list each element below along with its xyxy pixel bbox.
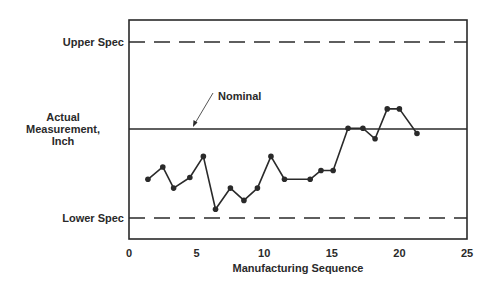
data-point-marker [228,185,234,191]
chart-svg: Upper Spec Lower Spec Nominal Actual Mea… [0,0,488,283]
data-point-marker [360,125,366,131]
data-point-marker [318,168,324,174]
data-point-marker [282,176,288,182]
data-point-marker [372,136,378,142]
data-point-marker [145,176,151,182]
y-axis-label-line1: Actual [46,111,80,123]
data-point-marker [241,198,247,204]
data-point-marker [160,164,166,170]
nominal-arrow-head-icon [193,120,198,127]
nominal-label: Nominal [218,90,261,102]
x-tick-label: 15 [326,247,338,259]
control-chart: Upper Spec Lower Spec Nominal Actual Mea… [0,0,488,283]
data-point-marker [330,168,336,174]
x-tick-label: 10 [258,247,270,259]
measurement-series-points [145,106,420,212]
data-point-marker [414,131,420,137]
data-point-marker [345,125,351,131]
upper-spec-label: Upper Spec [63,36,124,48]
y-axis-label-line2: Measurement, [26,123,100,135]
measurement-series-line [148,109,417,209]
data-point-marker [201,154,207,160]
data-point-marker [397,106,403,112]
data-point-marker [384,106,390,112]
data-point-marker [268,154,274,160]
data-point-marker [307,176,313,182]
x-axis-label: Manufacturing Sequence [233,262,364,274]
data-point-marker [171,185,177,191]
x-tick-label: 20 [393,247,405,259]
data-point-marker [213,206,219,212]
y-axis-label-line3: Inch [52,135,75,147]
data-point-marker [255,185,261,191]
nominal-arrow-shaft [194,93,213,125]
lower-spec-label: Lower Spec [62,212,124,224]
data-point-marker [187,175,193,181]
x-tick-label: 25 [461,247,473,259]
x-tick-label: 5 [194,247,200,259]
x-tick-label: 0 [126,247,132,259]
x-axis-ticks: 0510152025 [126,247,473,259]
